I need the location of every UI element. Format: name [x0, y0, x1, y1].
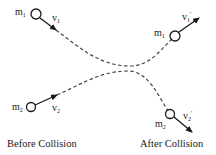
mass1-before-label: m1: [15, 6, 26, 18]
mass2-after-circle: [166, 110, 175, 119]
mass1-after-label: m1: [154, 27, 165, 39]
mass2-after-label: m2: [155, 118, 166, 130]
mass2-before-label: m2: [12, 101, 23, 113]
velocity2-after-label: v2': [183, 109, 192, 122]
mass1-before-circle: [31, 9, 41, 19]
velocity2-before-label: v2: [52, 102, 60, 114]
velocity1-after-label: v1': [182, 10, 191, 23]
collision-diagram: m1 v1 m2 v2 m1 v1' m2 v2' Before Collisi…: [0, 0, 216, 155]
velocity1-before-label: v1: [52, 12, 60, 24]
trajectory-mass2: [57, 71, 168, 111]
mass1-after-circle: [170, 31, 180, 41]
mass2-before-circle: [27, 103, 36, 112]
before-collision-caption: Before Collision: [7, 138, 77, 149]
after-collision-caption: After Collision: [140, 138, 204, 149]
